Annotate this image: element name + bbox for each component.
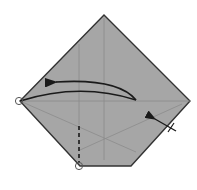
origami-diagram bbox=[0, 0, 197, 190]
paper-shape bbox=[20, 15, 190, 166]
diagram-svg bbox=[0, 0, 197, 190]
